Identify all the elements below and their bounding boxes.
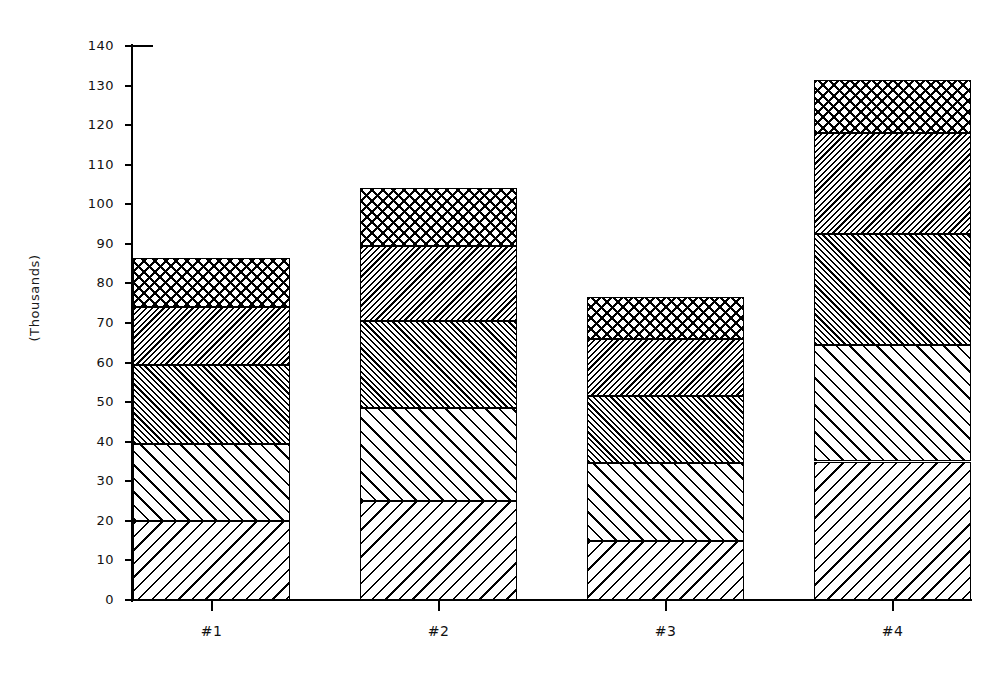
y-tick-mark: [125, 45, 132, 47]
bar-segment: [133, 521, 290, 600]
y-tick-label: 100: [70, 197, 114, 210]
y-tick-label: 0: [70, 593, 114, 606]
bar-segment: [360, 188, 517, 245]
bar-segment: [814, 462, 971, 601]
bar-cat2: [360, 46, 517, 600]
y-tick-mark: [125, 124, 132, 126]
y-tick-label: 30: [70, 474, 114, 487]
bar-segment: [360, 246, 517, 321]
y-tick-mark: [125, 559, 132, 561]
y-tick-label: 70: [70, 316, 114, 329]
y-tick-label: 110: [70, 158, 114, 171]
bar-segment: [133, 307, 290, 364]
bar-segment: [133, 258, 290, 307]
y-tick-label: 50: [70, 395, 114, 408]
y-tick-label: 140: [70, 39, 114, 52]
y-axis-title: (Thousands): [27, 218, 51, 378]
x-tick-label: #1: [152, 623, 272, 639]
y-tick-mark: [125, 164, 132, 166]
bar-segment: [360, 408, 517, 501]
y-tick-mark: [125, 203, 132, 205]
x-tick-mark: [665, 601, 667, 611]
y-tick-mark: [125, 282, 132, 284]
y-tick-mark: [125, 243, 132, 245]
bar-segment: [587, 396, 744, 463]
bar-segment: [587, 339, 744, 396]
bar-segment: [360, 321, 517, 408]
bar-cat4: [814, 46, 971, 600]
x-tick-mark: [438, 601, 440, 611]
x-tick-mark: [211, 601, 213, 611]
y-tick-label: 80: [70, 276, 114, 289]
y-tick-label: 120: [70, 118, 114, 131]
y-tick-label: 90: [70, 237, 114, 250]
y-tick-label: 60: [70, 356, 114, 369]
y-tick-mark: [125, 362, 132, 364]
bar-segment: [587, 297, 744, 339]
bar-segment: [814, 345, 971, 462]
bar-segment: [814, 133, 971, 234]
bar-segment: [133, 444, 290, 521]
y-tick-mark: [125, 520, 132, 522]
x-tick-mark: [892, 601, 894, 611]
bar-segment: [360, 501, 517, 600]
bar-cat1: [133, 46, 290, 600]
y-tick-mark: [125, 85, 132, 87]
bar-segment: [814, 80, 971, 133]
bar-segment: [587, 541, 744, 600]
y-tick-label: 130: [70, 79, 114, 92]
bar-segment: [133, 365, 290, 444]
y-tick-label: 20: [70, 514, 114, 527]
y-tick-label: 40: [70, 435, 114, 448]
x-tick-label: #4: [833, 623, 953, 639]
x-tick-label: #2: [379, 623, 499, 639]
y-tick-label: 10: [70, 553, 114, 566]
bar-cat3: [587, 46, 744, 600]
y-tick-mark: [125, 322, 132, 324]
y-tick-mark: [125, 441, 132, 443]
stacked-bar-chart: (Thousands) 0102030405060708090100110120…: [0, 0, 996, 680]
y-tick-mark: [125, 480, 132, 482]
x-tick-label: #3: [606, 623, 726, 639]
bar-segment: [814, 234, 971, 345]
bar-segment: [587, 463, 744, 540]
y-tick-mark: [125, 599, 132, 601]
y-tick-mark: [125, 401, 132, 403]
